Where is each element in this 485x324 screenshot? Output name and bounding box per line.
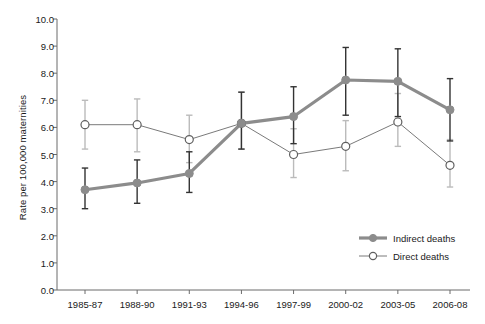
x-tick-label: 2000-02: [328, 299, 363, 310]
x-tick-label: 1994-96: [224, 299, 259, 310]
series-line-indirect-deaths: [85, 80, 450, 190]
y-tick-label: 10.0: [20, 14, 54, 25]
series-line-direct-deaths: [85, 122, 450, 165]
x-tick-label: 1988-90: [120, 299, 155, 310]
maternal-mortality-chart: Rate per 100,000 maternities 0.01.02.03.…: [0, 0, 485, 324]
y-tick-label: 7.0: [20, 95, 54, 106]
plot-area: [0, 0, 485, 324]
legend-open-circle-icon: [358, 250, 388, 262]
legend-filled-circle-icon: [358, 232, 388, 244]
y-tick-label: 1.0: [20, 257, 54, 268]
legend-label: Indirect deaths: [393, 233, 455, 244]
y-tick-label: 8.0: [20, 68, 54, 79]
x-tick-label: 2006-08: [433, 299, 468, 310]
y-tick-label: 9.0: [20, 41, 54, 52]
x-tick-label: 2003-05: [380, 299, 415, 310]
y-axis-tick-labels: 0.01.02.03.04.05.06.07.08.09.010.0: [20, 0, 54, 324]
x-tick-label: 1991-93: [172, 299, 207, 310]
y-tick-label: 4.0: [20, 176, 54, 187]
x-tick-label: 1985-87: [68, 299, 103, 310]
legend-label: Direct deaths: [393, 251, 449, 262]
legend-item-direct-deaths[interactable]: Direct deaths: [358, 250, 449, 262]
y-tick-label: 3.0: [20, 203, 54, 214]
x-tick-label: 1997-99: [276, 299, 311, 310]
y-tick-label: 0.0: [20, 285, 54, 296]
y-tick-label: 6.0: [20, 122, 54, 133]
y-tick-label: 5.0: [20, 149, 54, 160]
y-tick-label: 2.0: [20, 230, 54, 241]
legend-item-indirect-deaths[interactable]: Indirect deaths: [358, 232, 455, 244]
